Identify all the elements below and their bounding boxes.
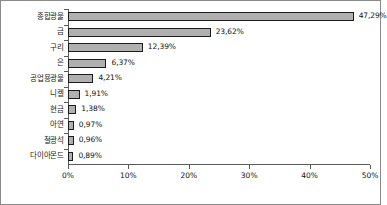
bar-value-label: 1,91% [85,89,108,99]
bar-value-label: 0,89% [78,151,101,161]
bar-row: 4,21% [68,72,370,86]
x-axis-tick [249,165,250,169]
category-label: 은 [57,59,64,67]
bar-value-label: 6,37% [111,58,134,68]
bar-row: 1,91% [68,88,370,102]
x-axis-tick [189,165,190,169]
x-axis-tick [310,165,311,169]
y-axis-tick [64,25,68,26]
category-label: 금 [57,28,64,36]
bar [68,43,143,52]
bar-row: 47,29% [68,10,370,24]
y-axis-tick [64,118,68,119]
bar-row: 1,38% [68,103,370,117]
bar-row: 23,62% [68,26,370,40]
bar-value-label: 12,39% [148,42,176,52]
category-label: 다이아몬드 [30,152,64,160]
bar-row: 0,89% [68,150,370,164]
bar [68,136,74,145]
y-axis-tick [64,87,68,88]
y-axis-tick [64,9,68,10]
bar-row: 12,39% [68,41,370,55]
y-axis-tick [64,71,68,72]
y-axis-tick [64,40,68,41]
y-axis-tick [64,102,68,103]
x-axis-tick-label: 40% [301,171,318,180]
bar-row: 6,37% [68,57,370,71]
x-axis-tick-label: 50% [362,171,379,180]
y-axis-tick [64,56,68,57]
bar [68,12,354,21]
bar [68,59,106,68]
bar-row: 0,97% [68,119,370,133]
bar [68,105,76,114]
x-axis-tick [370,165,371,169]
category-label: 종합광물 [37,13,64,21]
bar-value-label: 23,62% [216,27,244,37]
bar-value-label: 4,21% [98,73,121,83]
category-label: 아연 [50,121,64,129]
x-axis-tick-label: 10% [120,171,137,180]
bar-value-label: 1,38% [81,104,104,114]
category-label: 현금 [50,106,64,114]
bar-value-label: 0,97% [79,120,102,130]
bar [68,90,80,99]
bar [68,28,211,37]
plot-area: 47,29%23,62%12,39%6,37%4,21%1,91%1,38%0,… [68,9,370,164]
x-axis-tick [128,165,129,169]
category-label: 니켈 [50,90,64,98]
bar [68,152,73,161]
x-axis-line [68,164,370,165]
y-axis-tick [64,149,68,150]
category-label: 철광석 [44,137,64,145]
bar [68,74,93,83]
y-axis-tick [64,133,68,134]
bar-value-label: 47,29% [359,11,387,21]
x-axis-tick-label: 0% [62,171,74,180]
bar-row: 0,96% [68,134,370,148]
bar-value-label: 0,96% [79,135,102,145]
category-label: 공업용광물 [30,75,64,83]
category-axis: 종합광물금구리은공업용광물니켈현금아연철광석다이아몬드 [1,9,66,164]
x-axis-tick-label: 30% [241,171,258,180]
category-label: 구리 [50,44,64,52]
x-axis-tick [68,165,69,169]
bar [68,121,74,130]
x-axis-tick-label: 20% [180,171,197,180]
